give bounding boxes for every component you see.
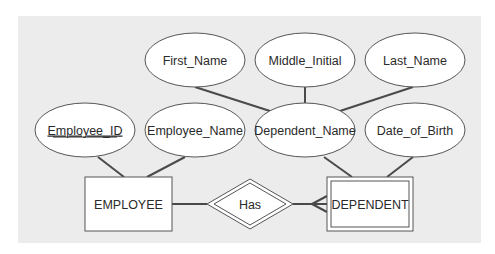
attribute-label: Employee_Name	[147, 124, 243, 138]
entity-label: EMPLOYEE	[94, 198, 163, 212]
attribute-label: Dependent_Name	[254, 124, 356, 138]
attribute-dependent-name: Dependent_Name	[254, 103, 356, 157]
attribute-employee-id: Employee_ID	[35, 103, 135, 157]
entity-employee: EMPLOYEE	[85, 177, 172, 231]
attribute-label: First_Name	[163, 54, 228, 68]
attribute-date-of-birth: Date_of_Birth	[365, 103, 465, 157]
er-diagram: First_Name Middle_Initial Last_Name Empl…	[0, 0, 495, 254]
attribute-last-name: Last_Name	[365, 33, 465, 87]
attribute-label: Last_Name	[383, 54, 447, 68]
entity-label: DEPENDENT	[331, 198, 408, 212]
attribute-label: Date_of_Birth	[377, 124, 453, 138]
attribute-first-name: First_Name	[145, 33, 245, 87]
attribute-middle-initial: Middle_Initial	[255, 33, 355, 87]
key-attribute-label: Employee_ID	[47, 124, 122, 138]
attribute-employee-name: Employee_Name	[145, 103, 245, 157]
attribute-label: Middle_Initial	[269, 54, 342, 68]
entity-dependent: DEPENDENT	[327, 177, 413, 231]
relationship-label: Has	[239, 198, 261, 212]
